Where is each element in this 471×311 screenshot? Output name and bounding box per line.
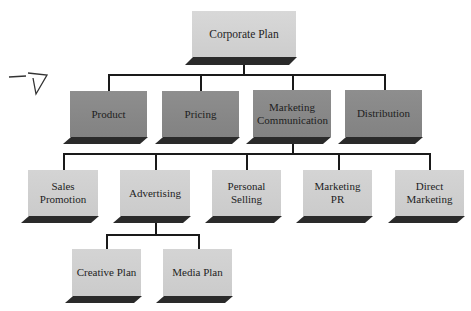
node-label: Direct Marketing [404, 180, 456, 206]
node-label: Marketing Communication [257, 101, 327, 127]
node-distribution: Distribution [345, 90, 422, 137]
node-shadow [156, 296, 233, 303]
node-pricing: Pricing [162, 91, 239, 137]
node-shadow [296, 216, 373, 223]
node-marketing-pr: Marketing PR [303, 170, 372, 216]
node-advertising: Advertising [120, 170, 190, 216]
node-shadow [155, 137, 240, 144]
node-shadow [65, 296, 142, 303]
node-label: Product [91, 108, 125, 121]
node-corporate-plan: Corporate Plan [192, 11, 296, 57]
node-label: Creative Plan [77, 266, 137, 279]
node-label: Marketing PR [312, 180, 364, 206]
node-label: Sales Promotion [37, 180, 89, 206]
connector [429, 153, 431, 170]
connector [338, 153, 340, 170]
node-marketing-communication: Marketing Communication [253, 90, 331, 137]
connector [106, 234, 199, 236]
node-creative-plan: Creative Plan [72, 249, 141, 296]
connector [384, 74, 386, 91]
connector [63, 153, 65, 170]
node-shadow [21, 216, 99, 223]
handwritten-arrow-mark [8, 70, 50, 98]
node-shadow [246, 137, 331, 144]
connector [292, 74, 294, 91]
node-product: Product [70, 91, 147, 137]
node-label: Advertising [129, 187, 181, 200]
connector [108, 74, 385, 76]
node-label: Corporate Plan [209, 28, 278, 41]
connector [106, 234, 108, 249]
node-sales-promotion: Sales Promotion [28, 170, 98, 216]
node-media-plan: Media Plan [163, 249, 232, 296]
connector [200, 74, 202, 91]
node-label: Pricing [185, 108, 217, 121]
node-label: Personal Selling [221, 180, 273, 206]
node-shadow [388, 216, 465, 223]
connector [246, 153, 248, 170]
node-personal-selling: Personal Selling [212, 170, 281, 216]
node-direct-marketing: Direct Marketing [395, 170, 464, 216]
connector [198, 234, 200, 249]
node-label: Distribution [357, 107, 410, 120]
node-shadow [205, 216, 282, 223]
node-shadow [113, 216, 191, 223]
node-shadow [338, 137, 423, 144]
node-label: Media Plan [172, 266, 222, 279]
node-shadow [185, 57, 297, 65]
connector [108, 74, 110, 91]
connector [155, 153, 157, 170]
node-shadow [63, 137, 148, 144]
